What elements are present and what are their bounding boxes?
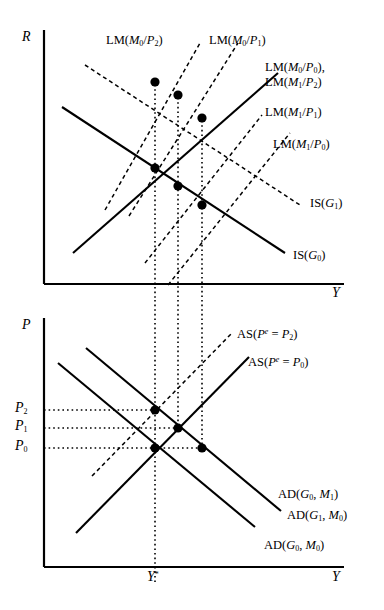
figure-canvas: R Y LM(M0/P2) LM(M0/P1) LM(M0/P0), LM(M1… — [0, 0, 384, 610]
top-y-axis-label: R — [22, 30, 31, 44]
bottom-solid-curves — [58, 348, 281, 533]
tick-label-p1: P1 — [15, 419, 28, 435]
bottom-y-axis-label: P — [22, 318, 31, 332]
curve-label-lm-m1-p0: LM(M1/P0) — [273, 137, 330, 153]
curve-label-is-g1: IS(G1) — [310, 196, 342, 212]
bottom-dashed-as-curve — [92, 333, 232, 476]
top-dashed-lm-curves — [105, 43, 290, 285]
curve-label-ad-g0-m0: AD(G0, M0) — [264, 538, 324, 554]
tick-label-y-star: Y* — [147, 570, 159, 586]
curve-label-lm-m0-p1: LM(M0/P1) — [209, 33, 266, 49]
curve-label-ad-g1-m0: AD(G1, M0) — [287, 508, 347, 524]
curve-label-lm-m1-p1: LM(M1/P1) — [265, 105, 322, 121]
curve-label-lm-m0-p2: LM(M0/P2) — [106, 33, 163, 49]
curve-label-as-pe-p0: AS(Pe = P0) — [248, 355, 308, 371]
curve-label-as-pe-p2: AS(Pe = P2) — [237, 327, 297, 343]
tick-label-p0: P0 — [15, 439, 28, 455]
curve-label-lm-m1-p2: LM(M1/P2) — [265, 75, 322, 91]
tick-label-p2: P2 — [15, 401, 28, 417]
bottom-x-axis-label: Y — [332, 570, 340, 584]
bottom-vertical-guides — [155, 300, 202, 582]
bottom-equilibrium-dots — [150, 405, 206, 452]
top-x-axis-label: Y — [332, 286, 340, 300]
curve-label-is-g0: IS(G0) — [293, 248, 325, 264]
curve-label-lm-m0-p0: LM(M0/P0), — [265, 60, 325, 76]
curve-label-ad-g0-m1: AD(G0, M1) — [278, 487, 338, 503]
